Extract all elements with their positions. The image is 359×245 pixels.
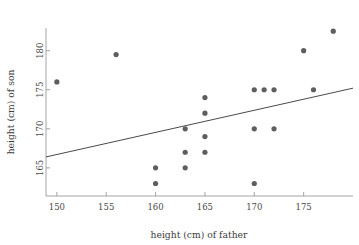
x-tick-label: 160: [147, 202, 163, 212]
y-axis-title: height (cm) of son: [5, 70, 16, 155]
scatter-plot-figure: 150155160165170175 165170175180 height (…: [0, 0, 359, 245]
trend-line: [46, 88, 353, 157]
data-point: [271, 87, 276, 92]
regression-line: [46, 88, 353, 157]
x-tick-label: 175: [296, 202, 312, 212]
y-axis-ticks: 165170175180: [35, 43, 50, 176]
y-tick-label: 165: [35, 160, 45, 176]
data-point: [202, 111, 207, 116]
data-point: [301, 48, 306, 53]
data-point: [311, 87, 316, 92]
data-point: [153, 181, 158, 186]
data-point: [183, 150, 188, 155]
x-tick-label: 150: [49, 202, 65, 212]
data-point: [262, 87, 267, 92]
data-point: [54, 79, 59, 84]
data-point: [252, 181, 257, 186]
data-point: [113, 52, 118, 57]
plot-canvas: 150155160165170175 165170175180 height (…: [0, 0, 359, 245]
data-point: [183, 165, 188, 170]
data-point: [202, 95, 207, 100]
axes-group: [46, 28, 353, 196]
data-point: [183, 126, 188, 131]
x-axis-title: height (cm) of father: [151, 229, 248, 240]
data-point: [252, 126, 257, 131]
data-point: [202, 134, 207, 139]
data-point: [271, 126, 276, 131]
y-tick-label: 175: [35, 82, 45, 98]
data-points: [54, 29, 336, 187]
x-tick-label: 165: [197, 202, 213, 212]
data-point: [331, 29, 336, 34]
x-axis-ticks: 150155160165170175: [49, 192, 312, 212]
data-point: [202, 150, 207, 155]
y-tick-label: 180: [35, 43, 45, 59]
data-point: [252, 87, 257, 92]
y-tick-label: 170: [35, 121, 45, 137]
data-point: [153, 165, 158, 170]
x-tick-label: 170: [246, 202, 262, 212]
x-tick-label: 155: [98, 202, 114, 212]
